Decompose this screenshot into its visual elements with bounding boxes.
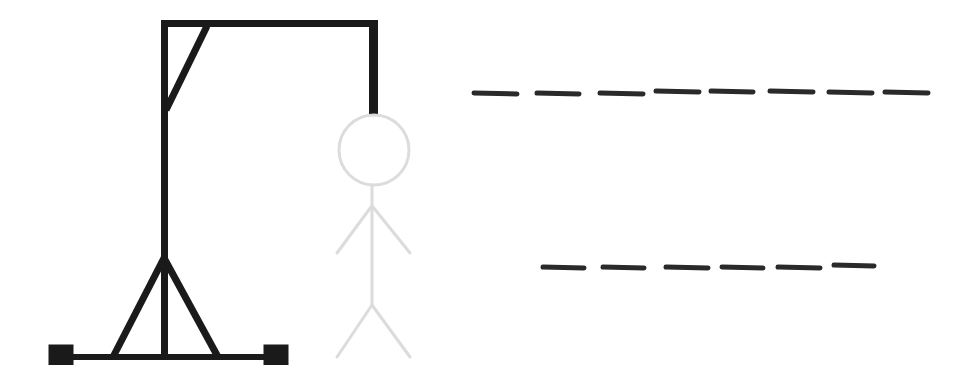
gallows-right-foot: [264, 345, 288, 365]
letter-blank: [834, 265, 874, 266]
gallows-left-foot: [49, 345, 73, 365]
hangman-figure: [337, 115, 410, 357]
word-2-blanks: [543, 265, 874, 268]
letter-blank: [770, 91, 813, 92]
figure-left-leg: [337, 305, 372, 357]
letter-blank: [543, 267, 584, 268]
letter-blank: [656, 91, 699, 92]
letter-blank: [722, 267, 763, 268]
word-blanks: [474, 91, 928, 268]
letter-blank: [474, 93, 517, 94]
figure-left-arm: [337, 207, 371, 253]
letter-blank: [885, 92, 928, 93]
figure-right-arm: [373, 207, 410, 253]
letter-blank: [537, 93, 579, 94]
letter-blank: [829, 92, 872, 93]
hangman-board: [0, 0, 980, 365]
gallows: [49, 20, 378, 365]
letter-blank: [666, 267, 708, 268]
letter-blank: [603, 267, 644, 268]
gallows-right-strut: [164, 258, 218, 357]
figure-head: [339, 115, 409, 185]
letter-blank: [778, 267, 820, 268]
gallows-left-strut: [113, 258, 164, 357]
figure-right-leg: [372, 305, 410, 357]
letter-blank: [711, 91, 753, 92]
gallows-corner-brace: [166, 26, 207, 110]
word-1-blanks: [474, 91, 928, 94]
letter-blank: [600, 93, 643, 94]
